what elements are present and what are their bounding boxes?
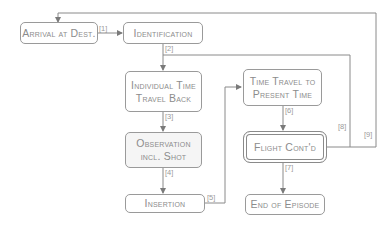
node-flight-continued: Flight Cont'd xyxy=(243,131,327,163)
node-label-line1: Time Travel to xyxy=(250,75,316,88)
edge-label-4: [4] xyxy=(165,168,173,177)
edge-label-7: [7] xyxy=(285,163,293,172)
node-label-line2: Travel Back xyxy=(136,92,191,105)
edge-label-8: [8] xyxy=(338,122,346,131)
flow-diagram: Arrival at Dest. Identification Individu… xyxy=(0,0,391,229)
node-label-line2: Present Time xyxy=(253,88,312,101)
node-label: Insertion xyxy=(145,197,186,210)
node-arrival-at-destination: Arrival at Dest. xyxy=(20,22,98,44)
node-label-line1: Observation xyxy=(136,137,190,150)
edge-label-3: [3] xyxy=(165,112,173,121)
node-label: Identification xyxy=(134,27,193,40)
node-label: End of Episode xyxy=(251,198,320,211)
edge-label-2: [2] xyxy=(165,44,173,53)
node-individual-time-travel-back: Individual Time Travel Back xyxy=(125,71,202,112)
node-observation-incl-shot: Observation incl. Shot xyxy=(125,132,202,168)
node-end-of-episode: End of Episode xyxy=(245,194,325,215)
node-insertion: Insertion xyxy=(125,194,205,213)
node-label-line1: Individual Time xyxy=(131,79,196,92)
edge-label-1: [1] xyxy=(99,24,107,33)
edge-label-6: [6] xyxy=(285,106,293,115)
edge-label-5: [5] xyxy=(207,193,215,202)
edge-label-9: [9] xyxy=(364,130,372,139)
node-label: Arrival at Dest. xyxy=(22,27,95,40)
node-time-travel-to-present-time: Time Travel to Present Time xyxy=(243,69,322,106)
node-label: Flight Cont'd xyxy=(254,141,316,154)
node-identification: Identification xyxy=(123,22,203,44)
node-label-line2: incl. Shot xyxy=(141,150,187,163)
